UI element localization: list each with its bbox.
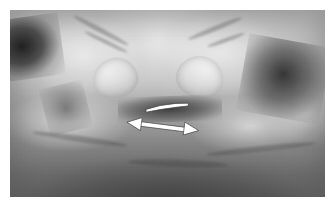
clinical-photograph xyxy=(10,10,325,197)
annotation-overlay xyxy=(10,10,325,197)
measurement-arrow-icon xyxy=(127,118,199,135)
figure-frame xyxy=(0,0,334,208)
measurement-bar-icon xyxy=(146,103,189,112)
